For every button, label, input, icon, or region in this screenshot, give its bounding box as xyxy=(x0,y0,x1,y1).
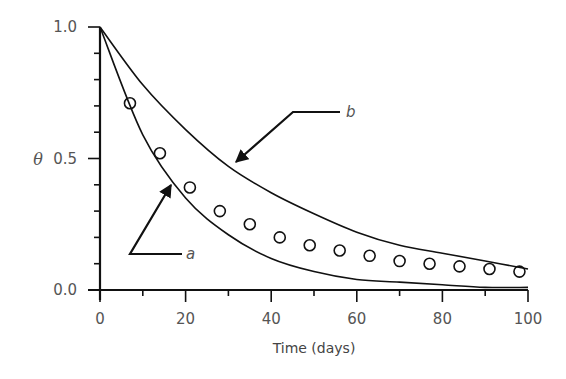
annotation-b: b xyxy=(236,103,356,162)
x-tick-label-100: 100 xyxy=(514,310,543,328)
data-point-circle-icon xyxy=(214,206,225,217)
curve-b xyxy=(100,27,528,269)
y-tick-label-1: 1.0 xyxy=(53,18,77,36)
data-point-circle-icon xyxy=(184,182,195,193)
y-tick-label-0-5: 0.5 xyxy=(53,150,77,168)
x-tick-label-60: 60 xyxy=(347,310,366,328)
data-point-circle-icon xyxy=(304,240,315,251)
data-point-circle-icon xyxy=(424,258,435,269)
x-tick-label-40: 40 xyxy=(262,310,281,328)
y-axis xyxy=(88,27,100,300)
data-point-circle-icon xyxy=(484,263,495,274)
arrow-b-icon xyxy=(236,112,340,162)
y-axis-title: θ xyxy=(33,150,43,169)
annotation-b-label: b xyxy=(346,103,356,121)
observed-data-markers xyxy=(124,98,524,277)
decay-chart: 0.0 0.5 1.0 0 20 40 60 80 100 Time (days… xyxy=(0,0,566,379)
data-point-circle-icon xyxy=(274,232,285,243)
y-tick-label-0: 0.0 xyxy=(53,281,77,299)
data-point-circle-icon xyxy=(364,250,375,261)
data-point-circle-icon xyxy=(454,261,465,272)
x-axis xyxy=(88,290,528,302)
data-point-circle-icon xyxy=(154,148,165,159)
data-point-circle-icon xyxy=(244,219,255,230)
x-axis-title: Time (days) xyxy=(272,340,356,356)
data-point-circle-icon xyxy=(334,245,345,256)
x-tick-label-0: 0 xyxy=(95,310,105,328)
x-tick-label-80: 80 xyxy=(433,310,452,328)
x-tick-label-20: 20 xyxy=(176,310,195,328)
data-point-circle-icon xyxy=(394,256,405,267)
annotation-a-label: a xyxy=(186,245,195,263)
arrow-a-icon xyxy=(130,185,182,254)
